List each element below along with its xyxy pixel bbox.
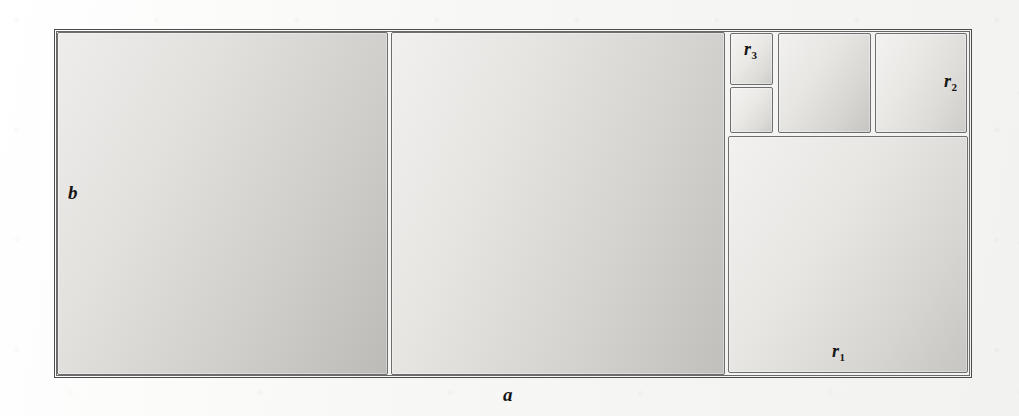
- label-square-r3: r3: [744, 40, 757, 58]
- label-r2-index: 2: [952, 81, 958, 93]
- label-r3-base: r: [744, 39, 751, 59]
- label-r2-base: r: [944, 71, 951, 91]
- label-r1-index: 1: [840, 351, 846, 363]
- label-square-r1: r1: [832, 342, 845, 360]
- label-r1-base: r: [832, 341, 839, 361]
- medium-top-square: [778, 33, 871, 133]
- big-middle-square: [391, 32, 725, 375]
- square-r1: [728, 136, 968, 373]
- figure-canvas: b a r1 r2 r3: [0, 0, 1019, 416]
- label-square-r2: r2: [944, 72, 957, 90]
- label-side-b: b: [68, 183, 78, 202]
- small-square-lower: [730, 87, 773, 133]
- label-r3-index: 3: [752, 49, 758, 61]
- label-side-a: a: [503, 385, 513, 404]
- big-left-square: [57, 32, 388, 375]
